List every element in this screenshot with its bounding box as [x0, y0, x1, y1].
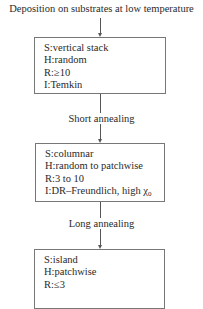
arrow-line-1	[100, 18, 101, 33]
stage2-row-i: I:DR–Freundlich, high χ0	[45, 185, 164, 200]
stage1-row-i: I:Temkin	[44, 79, 165, 91]
stage1-row-h: H:random	[44, 54, 165, 66]
stage3-row-h: H:patchwise	[44, 266, 164, 278]
stage2-row-s: S:columnar	[45, 148, 164, 160]
stage3-row-s: S:island	[44, 254, 164, 266]
stage-box-2: S:columnar H:random to patchwise R:3 to …	[35, 143, 165, 202]
flow-title: Deposition on substrates at low temperat…	[0, 3, 203, 15]
stage1-row-r: R:≥10	[44, 67, 165, 79]
transition-label-long: Long annealing	[0, 218, 203, 230]
stage2-row-r: R:3 to 10	[45, 173, 164, 185]
long-annealing-text: Long annealing	[67, 218, 137, 229]
stage2-row-h: H:random to patchwise	[45, 160, 164, 172]
stage3-row-r: R:≤3	[44, 279, 164, 291]
stage1-row-s: S:vertical stack	[44, 42, 165, 54]
stage-box-1: S:vertical stack H:random R:≥10 I:Temkin	[34, 37, 166, 94]
short-annealing-text: Short annealing	[66, 113, 136, 124]
stage-box-3: S:island H:patchwise R:≤3	[34, 249, 165, 309]
transition-label-short: Short annealing	[0, 113, 203, 125]
